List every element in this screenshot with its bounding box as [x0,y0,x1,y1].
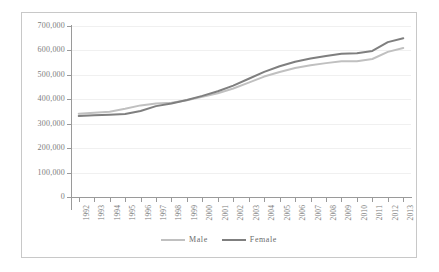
y-axis-label: 500,000 [22,70,65,79]
y-axis-tick [67,197,72,198]
x-axis-tick [202,198,203,202]
x-axis-label: 2011 [375,205,384,220]
x-axis-label: 1998 [174,205,183,220]
x-axis-label: 2001 [221,205,230,220]
plot-area [71,26,411,197]
legend-label: Male [189,235,208,244]
x-axis-tick [218,198,219,202]
x-axis-tick [156,198,157,202]
x-axis-label: 2003 [252,205,261,220]
x-axis-tick [372,198,373,202]
x-axis-tick [403,198,404,202]
series-line-male [79,48,404,114]
chart-container: 0100,000200,000300,000400,000500,000600,… [21,12,417,258]
legend-item-male[interactable]: Male [161,235,208,244]
x-axis-label: 2002 [236,205,245,220]
x-axis-tick [187,198,188,202]
x-axis-label: 1995 [128,205,137,220]
x-axis-tick [141,198,142,202]
x-axis-label: 1997 [159,205,168,220]
legend-item-female[interactable]: Female [222,235,277,244]
x-axis-label: 2008 [329,205,338,220]
x-axis-tick [249,198,250,202]
y-axis-tick [67,26,72,27]
x-axis-label: 2010 [360,205,369,220]
y-axis-label: 700,000 [22,21,65,30]
y-axis-tick [67,99,72,100]
y-axis-line [71,25,72,210]
legend-swatch-male-icon [161,239,185,241]
y-axis-tick [67,124,72,125]
x-axis-label: 2007 [314,205,323,220]
x-axis-label: 1992 [82,205,91,220]
legend-swatch-female-icon [222,239,246,241]
x-axis-tick [388,198,389,202]
x-axis-label: 1994 [113,205,122,220]
x-axis-tick [79,198,80,202]
y-axis-label: 300,000 [22,119,65,128]
series-lines [71,26,411,197]
y-axis-tick [67,75,72,76]
x-axis-label: 1999 [190,205,199,220]
y-axis-label: 400,000 [22,94,65,103]
chart-legend: MaleFemale [22,235,416,244]
y-axis-label: 100,000 [22,168,65,177]
x-axis-tick [295,198,296,202]
x-axis-tick [110,198,111,202]
y-axis-tick [67,148,72,149]
series-line-female [79,38,404,116]
x-axis-label: 2004 [267,205,276,220]
x-axis-label: 2009 [344,205,353,220]
x-axis-tick [233,198,234,202]
x-axis-label: 2000 [205,205,214,220]
x-axis-tick [171,198,172,202]
x-axis-label: 1996 [144,205,153,220]
y-axis-label: 200,000 [22,143,65,152]
x-axis-tick [341,198,342,202]
x-axis-tick [311,198,312,202]
x-axis-tick [357,198,358,202]
x-axis-line [71,197,412,198]
x-axis-label: 2005 [283,205,292,220]
x-axis-label: 2013 [406,205,415,220]
y-axis-label: 0 [22,192,65,201]
y-axis-label: 600,000 [22,45,65,54]
x-axis-tick [125,198,126,202]
x-axis-tick [264,198,265,202]
x-axis-tick [94,198,95,202]
x-axis-label: 2006 [298,205,307,220]
y-axis-tick [67,50,72,51]
legend-label: Female [250,235,277,244]
y-axis-tick [67,173,72,174]
x-axis-label: 1993 [97,205,106,220]
x-axis-label: 2012 [391,205,400,220]
x-axis-tick [326,198,327,202]
x-axis-tick [280,198,281,202]
